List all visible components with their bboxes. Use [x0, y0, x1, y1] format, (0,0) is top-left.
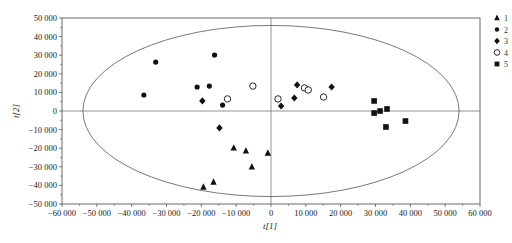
square-marker [495, 62, 500, 67]
legend-label: 1 [504, 14, 508, 23]
y-tick-label: −20 000 [29, 143, 57, 153]
square-marker [377, 108, 383, 114]
y-tick-label: 0 [53, 106, 57, 116]
y-tick-label: 30 000 [34, 50, 57, 60]
y-tick-label: −30 000 [29, 162, 57, 172]
legend-label: 3 [504, 37, 508, 46]
x-tick-label: −30 000 [152, 208, 180, 218]
diamond-marker [216, 124, 222, 131]
x-axis-label: t[1] [263, 221, 278, 231]
triangle-marker [249, 163, 255, 169]
legend-item-5: 5 [495, 60, 508, 69]
x-tick-label: −40 000 [118, 208, 146, 218]
x-tick-label: 40 000 [399, 208, 422, 218]
series-3 [199, 81, 335, 131]
legend-item-4: 4 [494, 49, 508, 58]
triangle-marker [265, 149, 271, 155]
diamond-marker [494, 38, 500, 44]
triangle-marker [200, 183, 206, 189]
filled-circle-marker [220, 102, 225, 107]
series-4 [224, 83, 327, 102]
open-circle-marker [224, 96, 230, 102]
square-marker [383, 124, 389, 130]
legend-label: 2 [504, 26, 508, 35]
x-tick-label: 50 000 [433, 208, 456, 218]
diamond-marker [199, 97, 205, 104]
triangle-marker [243, 147, 249, 153]
triangle-marker [210, 178, 216, 184]
triangle-marker [231, 144, 237, 150]
legend: 12345 [494, 14, 508, 69]
open-circle-marker [320, 94, 326, 100]
x-tick-label: 30 000 [364, 208, 387, 218]
y-tick-label: 40 000 [34, 32, 57, 42]
open-circle-marker [275, 96, 281, 102]
zero-axes [62, 18, 480, 204]
x-tick-label: 60 000 [468, 208, 491, 218]
series-2 [141, 52, 225, 107]
x-tick-label: −10 000 [222, 208, 250, 218]
diamond-marker [291, 94, 297, 101]
triangle-marker [494, 15, 500, 21]
legend-item-2: 2 [495, 26, 508, 35]
series-1 [200, 144, 271, 189]
y-tick-label: 20 000 [34, 69, 57, 79]
open-circle-marker [494, 50, 500, 56]
open-circle-marker [305, 87, 311, 93]
y-axis-ticks: 50 00040 00030 00020 00010 0000−10 000−2… [29, 13, 62, 209]
data-points [141, 52, 408, 189]
filled-circle-marker [212, 52, 217, 57]
filled-circle-marker [153, 59, 158, 64]
y-tick-label: −10 000 [29, 125, 57, 135]
filled-circle-marker [207, 83, 212, 88]
y-axis-label: t[2] [11, 104, 21, 119]
diamond-marker [328, 83, 334, 90]
filled-circle-marker [141, 92, 146, 97]
x-tick-label: 10 000 [294, 208, 317, 218]
y-tick-label: 10 000 [34, 87, 57, 97]
square-marker [371, 110, 377, 116]
x-tick-label: 0 [269, 208, 273, 218]
x-tick-label: −60 000 [48, 208, 76, 218]
y-tick-label: 50 000 [34, 13, 57, 23]
x-tick-label: −50 000 [83, 208, 111, 218]
open-circle-marker [250, 83, 256, 89]
diamond-marker [278, 102, 284, 109]
x-axis-ticks: −60 000−50 000−40 000−30 000−20 000−10 0… [48, 204, 492, 218]
diamond-marker [294, 81, 300, 88]
legend-item-1: 1 [494, 14, 508, 23]
filled-circle-marker [495, 27, 499, 31]
legend-item-3: 3 [494, 37, 508, 46]
y-tick-label: −40 000 [29, 180, 57, 190]
square-marker [384, 106, 390, 112]
pca-score-plot: 50 00040 00030 00020 00010 0000−10 000−2… [0, 0, 512, 243]
legend-label: 5 [504, 60, 508, 69]
series-5 [371, 98, 408, 130]
x-tick-label: 20 000 [329, 208, 352, 218]
legend-label: 4 [504, 49, 508, 58]
filled-circle-marker [195, 84, 200, 89]
square-marker [403, 118, 409, 124]
x-tick-label: −20 000 [187, 208, 215, 218]
square-marker [371, 98, 377, 104]
